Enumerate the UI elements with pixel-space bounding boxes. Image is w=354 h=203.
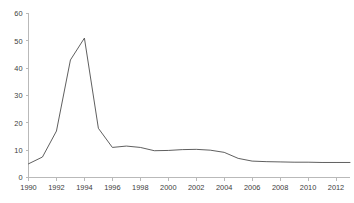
x-axis: 1990199219941996199820002002200420062008… [20, 178, 350, 192]
y-tick-label: 50 [14, 37, 22, 46]
x-tick-label: 2010 [300, 183, 316, 192]
x-tick-label: 2002 [188, 183, 204, 192]
x-tick-label: 1994 [76, 183, 92, 192]
chart-figure: 0102030405060 19901992199419961998200020… [0, 0, 354, 203]
y-axis: 0102030405060 [14, 9, 28, 182]
y-tick-label: 10 [14, 146, 22, 155]
x-tick-label: 1990 [20, 183, 36, 192]
x-tick-label: 2000 [160, 183, 176, 192]
y-tick-label: 0 [18, 173, 22, 182]
data-series [29, 38, 351, 164]
y-tick-label: 60 [14, 9, 22, 18]
x-tick-label: 1992 [48, 183, 64, 192]
y-tick-label: 20 [14, 119, 22, 128]
x-tick-label: 2006 [244, 183, 260, 192]
y-tick-label: 30 [14, 91, 22, 100]
y-tick-label: 40 [14, 64, 22, 73]
x-tick-label: 1998 [132, 183, 148, 192]
x-tick-label: 1996 [104, 183, 120, 192]
x-tick-label: 2008 [272, 183, 288, 192]
series-line-1 [29, 38, 351, 164]
x-tick-label: 2012 [328, 183, 344, 192]
line-chart-plot: 0102030405060 19901992199419961998200020… [0, 0, 354, 203]
x-tick-label: 2004 [216, 183, 232, 192]
